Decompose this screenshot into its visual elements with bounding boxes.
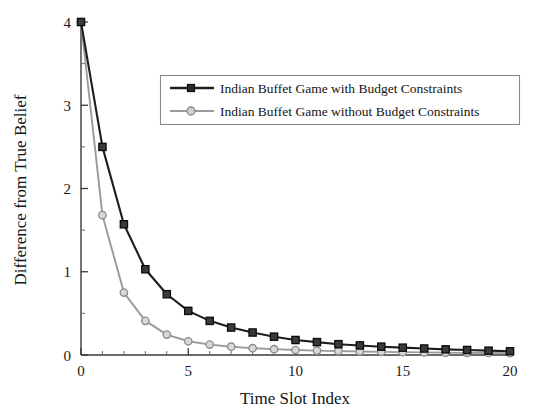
y-tick-label: 1 [64, 264, 72, 280]
data-point-circle [313, 347, 320, 354]
data-point-square [442, 346, 449, 353]
x-tick-label: 15 [395, 363, 410, 379]
data-point-square [506, 348, 513, 355]
legend-marker-circle-icon [187, 107, 195, 115]
data-point-circle [120, 289, 127, 296]
data-point-square [249, 329, 256, 336]
legend-marker-square-icon [188, 85, 195, 92]
data-point-square [421, 345, 428, 352]
data-point-square [270, 333, 277, 340]
data-point-circle [270, 345, 277, 352]
x-axis-title: Time Slot Index [240, 389, 350, 408]
y-tick-label: 3 [64, 98, 72, 114]
data-point-square [399, 344, 406, 351]
data-point-square [464, 346, 471, 353]
chart-legend: Indian Buffet Game with Budget Constrain… [161, 76, 520, 125]
data-point-circle [99, 211, 106, 218]
x-tick-label: 20 [503, 363, 518, 379]
data-point-square [77, 18, 84, 25]
y-tick-label: 0 [64, 348, 72, 364]
x-tick-label: 10 [288, 363, 303, 379]
data-point-square [185, 307, 192, 314]
data-point-square [485, 347, 492, 354]
data-point-circle [163, 331, 170, 338]
data-point-square [335, 341, 342, 348]
data-point-square [356, 342, 363, 349]
data-point-square [120, 221, 127, 228]
legend-label-with-budget: Indian Buffet Game with Budget Constrain… [220, 81, 462, 96]
data-point-square [99, 143, 106, 150]
data-point-square [292, 336, 299, 343]
data-point-square [163, 291, 170, 298]
data-point-circle [185, 338, 192, 345]
data-point-square [313, 339, 320, 346]
data-point-circle [142, 317, 149, 324]
x-tick-label: 5 [185, 363, 193, 379]
chart-figure: 01234 05101520 Time Slot Index Differenc… [0, 0, 546, 420]
data-point-circle [292, 346, 299, 353]
data-point-circle [206, 341, 213, 348]
x-tick-label: 0 [77, 363, 85, 379]
y-axis-title: Difference from True Belief [11, 94, 30, 285]
legend-label-without-budget: Indian Buffet Game without Budget Constr… [220, 104, 480, 119]
y-tick-label: 2 [64, 181, 72, 197]
y-tick-label: 4 [64, 15, 72, 31]
data-point-circle [335, 347, 342, 354]
data-point-circle [227, 343, 234, 350]
chart-background [0, 0, 546, 420]
data-point-circle [249, 344, 256, 351]
data-point-square [142, 266, 149, 273]
data-point-square [206, 317, 213, 324]
data-point-square [228, 324, 235, 331]
data-point-square [378, 343, 385, 350]
line-chart: 01234 05101520 Time Slot Index Differenc… [0, 0, 546, 420]
